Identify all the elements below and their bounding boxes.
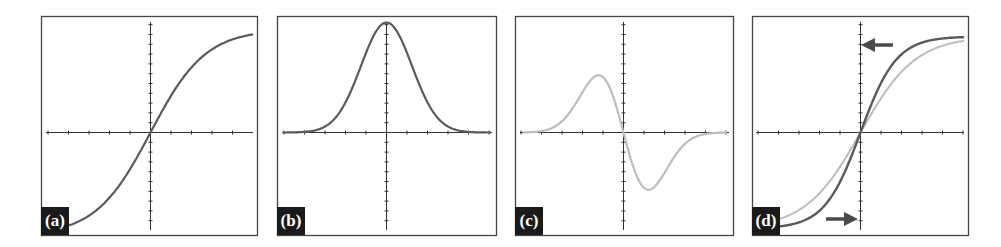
panel-a-border <box>42 17 258 236</box>
panel-b-label: (b) <box>277 207 305 235</box>
panel-d <box>753 17 969 236</box>
panel-a <box>42 17 258 236</box>
figure-canvas <box>0 0 1001 247</box>
panel-a-label: (a) <box>41 207 69 235</box>
panel-d-label: (d) <box>752 207 780 235</box>
panel-c-label: (c) <box>515 207 543 235</box>
panel-c-border <box>516 17 734 236</box>
panel-c <box>516 17 734 236</box>
panel-b <box>278 17 497 236</box>
